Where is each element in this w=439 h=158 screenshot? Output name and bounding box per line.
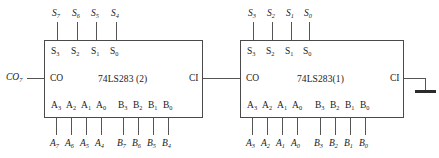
signal-label-b1: B1: [344, 139, 353, 149]
wire-u1-s1: [291, 22, 292, 40]
pin-label-u2-b1: B1: [148, 101, 158, 111]
pin-label-u1-b2: B2: [330, 101, 340, 111]
signal-label-b3: B3: [314, 139, 323, 149]
signal-label-a6: A6: [65, 139, 74, 149]
wire-u1-ci-to-gnd-v: [425, 78, 426, 90]
wire-u1-a3: [252, 118, 253, 135]
signal-label-a4: A4: [95, 139, 104, 149]
pin-label-u1-s0: S0: [303, 47, 311, 57]
wire-carry-chain: [203, 78, 240, 79]
signal-label-a1: A1: [276, 139, 285, 149]
chip-74ls283-2-label: 74LS283 (2): [98, 74, 147, 84]
wire-u1-a1: [282, 118, 283, 135]
pin-label-u1-ci: CI: [390, 74, 400, 84]
pin-label-u2-b0: B0: [163, 101, 173, 111]
signal-label-co7: CO7: [6, 73, 22, 83]
pin-label-u2-co: CO: [50, 74, 63, 84]
pin-label-u1-a0: A0: [292, 101, 302, 111]
wire-u1-b1: [350, 118, 351, 135]
pin-label-u2-b3: B3: [118, 101, 128, 111]
signal-label-s0: S0: [304, 9, 312, 19]
pin-label-u1-b0: B0: [360, 101, 370, 111]
pin-label-u1-co: CO: [246, 74, 259, 84]
wire-u2-co-out: [27, 78, 44, 79]
pin-label-u2-s0: S0: [110, 47, 118, 57]
pin-label-u1-b3: B3: [315, 101, 325, 111]
wire-u2-b1: [153, 118, 154, 135]
signal-label-s7: S7: [52, 9, 60, 19]
wire-u2-b3: [123, 118, 124, 135]
pin-label-u1-b1: B1: [345, 101, 355, 111]
wire-u2-b2: [138, 118, 139, 135]
pin-label-u1-a1: A1: [277, 101, 287, 111]
wire-u2-s0: [116, 22, 117, 40]
signal-label-s1: S1: [286, 9, 294, 19]
wire-u2-s2: [77, 22, 78, 40]
wire-u2-a0: [101, 118, 102, 135]
signal-label-b5: B5: [147, 139, 156, 149]
wire-u1-a0: [297, 118, 298, 135]
pin-label-u1-s3: S3: [247, 47, 255, 57]
wire-u1-b2: [335, 118, 336, 135]
wire-u1-ci-to-gnd-h: [404, 78, 426, 79]
pin-label-u2-b2: B2: [133, 101, 143, 111]
pin-label-u2-a3: A3: [51, 101, 61, 111]
chip-74ls283-1-label: 74LS283(1): [297, 74, 344, 84]
signal-label-b6: B6: [132, 139, 141, 149]
wire-u2-a3: [56, 118, 57, 135]
signal-label-b7: B7: [117, 139, 126, 149]
pin-label-u2-a2: A2: [66, 101, 76, 111]
signal-label-b4: B4: [162, 139, 171, 149]
signal-label-a0: A0: [291, 139, 300, 149]
wire-u1-s2: [272, 22, 273, 40]
wire-u2-s1: [96, 22, 97, 40]
signal-label-a3: A3: [246, 139, 255, 149]
signal-label-s2: S2: [267, 9, 275, 19]
pin-label-u1-a2: A2: [262, 101, 272, 111]
signal-label-s5: S5: [91, 9, 99, 19]
wire-u1-s0: [309, 22, 310, 40]
pin-label-u1-a3: A3: [247, 101, 257, 111]
signal-label-s3: S3: [248, 9, 256, 19]
pin-label-u2-a1: A1: [81, 101, 91, 111]
pin-label-u2-s2: S2: [71, 47, 79, 57]
signal-label-a2: A2: [261, 139, 270, 149]
signal-label-s4: S4: [111, 9, 119, 19]
signal-label-s6: S6: [72, 9, 80, 19]
wire-u1-a2: [267, 118, 268, 135]
signal-label-b2: B2: [329, 139, 338, 149]
circuit-diagram: 74LS283 (2) S3 S2 S1 S0 A3 A2 A1 A0 B3 B…: [0, 0, 439, 158]
pin-label-u2-s1: S1: [91, 47, 99, 57]
pin-label-u2-s3: S3: [51, 47, 59, 57]
signal-label-a7: A7: [50, 139, 59, 149]
pin-label-u1-s1: S1: [285, 47, 293, 57]
pin-label-u1-s2: S2: [266, 47, 274, 57]
wire-u1-b0: [365, 118, 366, 135]
wire-u2-a1: [86, 118, 87, 135]
wire-u2-a2: [71, 118, 72, 135]
pin-label-u2-a0: A0: [96, 101, 106, 111]
pin-label-u2-ci: CI: [189, 74, 199, 84]
ground-icon: [415, 90, 436, 93]
wire-u1-b3: [320, 118, 321, 135]
wire-u1-s3: [253, 22, 254, 40]
wire-u2-s3: [57, 22, 58, 40]
wire-u2-b0: [168, 118, 169, 135]
signal-label-a5: A5: [80, 139, 89, 149]
signal-label-b0: B0: [359, 139, 368, 149]
